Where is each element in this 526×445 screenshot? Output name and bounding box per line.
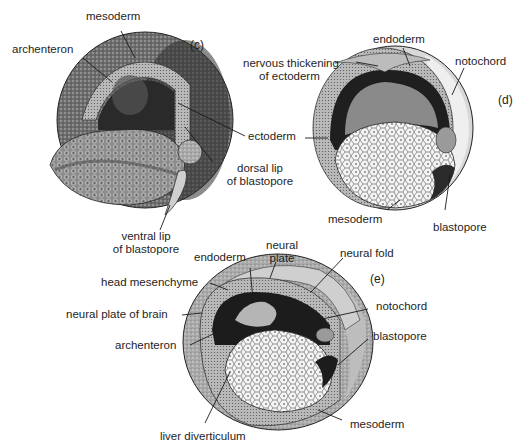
label-c-ectoderm: ectoderm: [248, 130, 296, 143]
label-c-dorsal-lip: dorsal lip of blastopore: [222, 162, 298, 188]
label-d-blastopore: blastopore: [433, 221, 487, 234]
label-e-mesoderm: mesoderm: [350, 418, 404, 431]
label-e-liver-diverticulum: liver diverticulum: [160, 430, 246, 443]
label-e-neural-fold: neural fold: [340, 247, 394, 260]
panel-d-tag: (d): [498, 93, 513, 107]
label-c-ventral-lip: ventral lip of blastopore: [108, 230, 184, 256]
label-e-blastopore: blastopore: [373, 330, 427, 343]
panel-c-tag: (c): [190, 38, 204, 52]
label-d-nervous-thickening: nervous thickening of ectoderm: [243, 57, 339, 83]
label-e-archenteron: archenteron: [115, 339, 176, 352]
label-e-notochord: notochord: [376, 300, 427, 313]
label-e-head-mesenchyme: head mesenchyme: [101, 276, 198, 289]
label-c-mesoderm: mesoderm: [86, 10, 140, 23]
embryo-c: [50, 32, 233, 215]
label-c-archenteron: archenteron: [12, 43, 73, 56]
embryo-development-figure: (c) mesoderm archenteron ectoderm dorsal…: [0, 0, 526, 445]
label-d-notochord: notochord: [455, 55, 506, 68]
label-e-neural-plate-of-brain: neural plate of brain: [66, 308, 168, 321]
label-d-endoderm: endoderm: [373, 33, 425, 46]
label-d-mesoderm: mesoderm: [328, 213, 382, 226]
label-e-neural-plate: neural plate: [262, 239, 302, 265]
label-e-endoderm: endoderm: [194, 251, 246, 264]
embryo-e: [183, 254, 373, 430]
panel-e-tag: (e): [370, 272, 385, 286]
